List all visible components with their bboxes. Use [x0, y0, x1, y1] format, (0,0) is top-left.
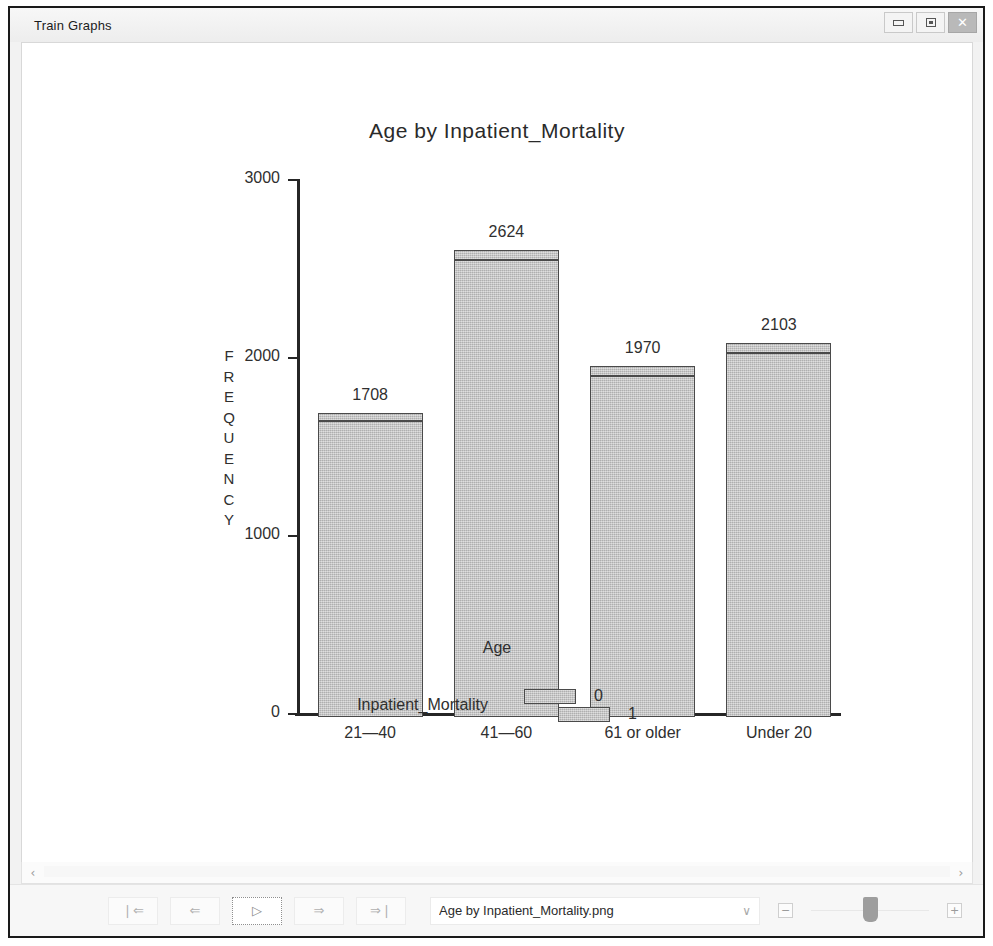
minimize-button[interactable]: [884, 12, 913, 33]
bar-value-label: 1708: [352, 386, 388, 404]
x-axis-tick-label: Under 20: [711, 724, 847, 742]
bar-value-label: 2103: [761, 316, 797, 334]
graph-file-select-value: Age by Inpatient_Mortality.png: [439, 903, 742, 918]
bar: 1708: [318, 413, 423, 717]
bar-segment-0: [318, 421, 423, 717]
legend-label: 0: [594, 687, 603, 705]
bar-segment-0: [590, 376, 695, 717]
legend-item: 1: [558, 705, 637, 723]
y-axis-tick: 3000: [288, 179, 297, 181]
skip-to-last-icon: ⇒❘: [370, 903, 392, 918]
x-axis-tick-label: 21—40: [302, 724, 438, 742]
scrollbar-track[interactable]: [44, 866, 950, 877]
legend-swatch: [558, 707, 610, 722]
legend-swatch: [524, 689, 576, 704]
graph-file-select[interactable]: Age by Inpatient_Mortality.png ∨: [430, 897, 760, 925]
bar-segment-1: [590, 366, 695, 376]
zoom-slider[interactable]: [811, 910, 929, 911]
previous-graph-button[interactable]: ⇐: [170, 897, 220, 925]
bar-segment-0: [726, 353, 831, 717]
arrow-right-icon: ⇒: [314, 903, 325, 918]
y-axis-tick: 1000: [288, 535, 297, 537]
application-window: Train Graphs ✕ Age by Inpatient_Mortalit…: [8, 6, 985, 938]
window-title: Train Graphs: [34, 18, 112, 33]
legend-entries: 01: [524, 687, 637, 723]
zoom-slider-handle[interactable]: [863, 897, 878, 922]
maximize-icon: [926, 18, 936, 27]
last-graph-button[interactable]: ⇒❘: [356, 897, 406, 925]
close-icon: ✕: [957, 16, 968, 29]
skip-to-first-icon: ❘⇐: [122, 903, 144, 918]
legend-title: Inpatient_Mortality: [357, 696, 488, 714]
play-icon: ▷: [252, 903, 262, 918]
plot-area: 0100020003000 1708262419702103 21—4041—6…: [297, 179, 842, 717]
x-axis-title: Age: [22, 639, 972, 657]
bar: 1970: [590, 366, 695, 717]
minimize-icon: [893, 20, 904, 26]
play-button[interactable]: ▷: [232, 897, 282, 925]
y-axis-tick-label: 3000: [244, 169, 280, 187]
window-controls: ✕: [884, 12, 977, 33]
maximize-button[interactable]: [916, 12, 945, 33]
bar-segment-1: [454, 250, 559, 260]
next-graph-button[interactable]: ⇒: [294, 897, 344, 925]
arrow-left-icon: ⇐: [190, 903, 201, 918]
scroll-left-icon[interactable]: ‹: [25, 866, 41, 880]
scroll-right-icon[interactable]: ›: [953, 866, 969, 880]
y-axis-tick-label: 1000: [244, 525, 280, 543]
legend-item: 0: [524, 687, 637, 705]
chart-legend: Inpatient_Mortality 01: [22, 687, 972, 723]
chart-title: Age by Inpatient_Mortality: [22, 119, 972, 143]
bar-chart: Age by Inpatient_Mortality FREQUENCY 010…: [22, 43, 972, 862]
title-bar: Train Graphs ✕: [10, 8, 983, 42]
y-axis-tick-label: 2000: [244, 347, 280, 365]
bar-segment-1: [726, 343, 831, 353]
close-button[interactable]: ✕: [948, 12, 977, 33]
x-axis-tick-label: 41—60: [438, 724, 574, 742]
y-axis-tick: 2000: [288, 357, 297, 359]
legend-label: 1: [628, 705, 637, 723]
horizontal-scrollbar[interactable]: ‹ ›: [21, 862, 973, 884]
zoom-out-button[interactable]: −: [778, 903, 793, 918]
bar-value-label: 2624: [489, 223, 525, 241]
bar-segment-1: [318, 413, 423, 421]
graph-viewer-canvas: Age by Inpatient_Mortality FREQUENCY 010…: [21, 42, 973, 862]
chevron-down-icon: ∨: [742, 904, 751, 918]
y-axis-line: [297, 179, 300, 713]
y-axis-title: FREQUENCY: [218, 346, 240, 531]
bar: 2103: [726, 343, 831, 717]
zoom-in-button[interactable]: +: [947, 903, 962, 918]
first-graph-button[interactable]: ❘⇐: [108, 897, 158, 925]
x-axis-tick-label: 61 or older: [575, 724, 711, 742]
bar-value-label: 1970: [625, 339, 661, 357]
bottom-toolbar: ❘⇐ ⇐ ▷ ⇒ ⇒❘ Age by Inpatient_Mortality.p…: [10, 884, 983, 936]
